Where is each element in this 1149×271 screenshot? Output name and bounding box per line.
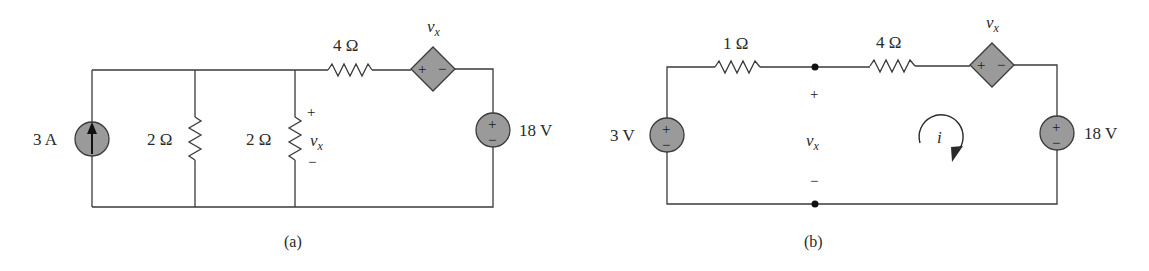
circuit-b: + − 3 V 1 Ω + vx − 4 Ω + − vx i +: [610, 13, 1118, 251]
resistor-a-2ohm-1: [189, 117, 201, 160]
svg-text:−: −: [1052, 135, 1060, 151]
wire-a-bottom: [92, 147, 493, 207]
resistor-b-4ohm-label: 4 Ω: [876, 33, 901, 52]
dependent-source-a-label: vx: [427, 17, 441, 39]
svg-text:−: −: [662, 137, 670, 153]
caption-b: (b): [804, 233, 823, 251]
voltage-source-a-18v: + −: [476, 113, 510, 148]
svg-text:+: +: [977, 57, 985, 73]
voltage-source-a-label: 18 V: [519, 121, 553, 140]
vx-minus-b: −: [810, 173, 818, 189]
resistor-b-1ohm-label: 1 Ω: [723, 34, 748, 53]
svg-text:+: +: [418, 61, 426, 77]
svg-text:+: +: [488, 116, 496, 132]
vx-label-b: vx: [806, 131, 820, 153]
svg-text:+: +: [662, 121, 670, 137]
svg-text:−: −: [488, 132, 496, 148]
svg-text:−: −: [438, 61, 446, 77]
caption-a: (a): [284, 233, 302, 251]
resistor-a-4ohm: [328, 64, 372, 76]
resistor-b-1ohm: [715, 61, 760, 73]
voltage-source-b-18v-label: 18 V: [1084, 124, 1118, 143]
voltage-source-b-18v: + −: [1040, 116, 1074, 151]
svg-text:−: −: [997, 57, 1005, 73]
vx-minus-a: −: [308, 154, 316, 170]
current-source-3a: [75, 122, 109, 156]
dependent-source-b: + −: [970, 43, 1014, 87]
dependent-source-b-label: vx: [986, 13, 1000, 35]
voltage-source-b-3v-label: 3 V: [610, 126, 635, 145]
resistor-a-2ohm-1-label: 2 Ω: [147, 130, 172, 149]
svg-text:+: +: [1052, 119, 1060, 135]
wire-b-bottom: [667, 150, 1057, 204]
mesh-current-label: i: [937, 128, 942, 147]
wire-a-top-right: [455, 69, 493, 113]
circuit-a: 3 A 2 Ω 2 Ω + vx − 4 Ω + − vx + − 18 V (…: [33, 17, 553, 251]
current-source-label: 3 A: [33, 130, 58, 149]
resistor-a-4ohm-label: 4 Ω: [333, 36, 358, 55]
vx-plus-b: +: [810, 86, 818, 102]
vx-label-a: vx: [310, 131, 324, 153]
wire-b-right-top: [1014, 65, 1057, 116]
circuit-figure: 3 A 2 Ω 2 Ω + vx − 4 Ω + − vx + − 18 V (…: [0, 0, 1149, 271]
node-b-bottom: [812, 201, 819, 208]
voltage-source-b-3v: + −: [650, 118, 684, 153]
resistor-a-2ohm-2: [289, 117, 301, 160]
wire-b-left: [667, 67, 715, 118]
resistor-a-2ohm-2-label: 2 Ω: [246, 130, 271, 149]
resistor-b-4ohm: [870, 60, 915, 72]
node-b-top: [812, 64, 819, 71]
vx-plus-a: +: [307, 104, 315, 120]
dependent-source-a: + −: [411, 47, 455, 91]
